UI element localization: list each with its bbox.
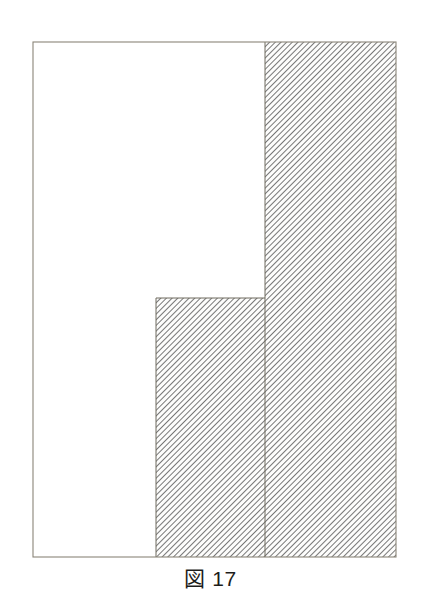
region-hatched-right-column bbox=[265, 42, 396, 557]
figure-caption-number: 17 bbox=[212, 567, 236, 590]
region-hatched-lower-block bbox=[156, 298, 265, 557]
figure-caption: 図 17 bbox=[0, 566, 421, 591]
figure-page: 図 17 bbox=[0, 0, 421, 614]
figure-caption-label: 図 bbox=[184, 567, 206, 590]
figure-diagram bbox=[0, 0, 421, 614]
